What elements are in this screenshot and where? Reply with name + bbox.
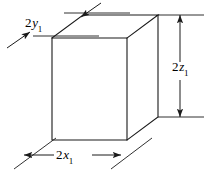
depth-label-subscript: 1: [38, 24, 43, 34]
width-dimension-label: 2x1: [56, 148, 74, 165]
width-extension-line-right: [111, 138, 152, 169]
width-label-number: 2: [56, 147, 63, 162]
height-dimension-label: 2z1: [172, 60, 189, 77]
depth-dimension-arrow-lower: [7, 32, 30, 48]
box-dimension-figure: 2y1 2z1 2x1: [0, 0, 204, 174]
height-label-number: 2: [172, 59, 179, 74]
width-extension-line-left: [14, 138, 56, 169]
width-label-subscript: 1: [69, 156, 74, 166]
box-front-face-edge: [52, 38, 127, 140]
depth-label-number: 2: [25, 15, 32, 30]
box-top-face-edge: [52, 15, 158, 38]
box-solid-edges: [52, 15, 158, 140]
width-dimension: [14, 138, 152, 169]
height-label-subscript: 1: [184, 68, 189, 78]
depth-dimension-label: 2y1: [25, 16, 43, 33]
box-right-face-edge: [127, 15, 158, 140]
